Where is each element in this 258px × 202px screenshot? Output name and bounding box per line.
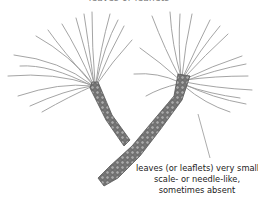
right-needle-cluster [134, 12, 252, 112]
left-needle-cluster [8, 12, 132, 112]
annotation-label: leaves (or leaflets) very small, scale- … [136, 163, 258, 196]
annotation-line-2: scale- or needle-like, [136, 174, 258, 185]
annotation-line-3: sometimes absent [136, 185, 258, 196]
leader-line [198, 114, 210, 158]
annotation-line-1: leaves (or leaflets) very small, [136, 163, 258, 174]
